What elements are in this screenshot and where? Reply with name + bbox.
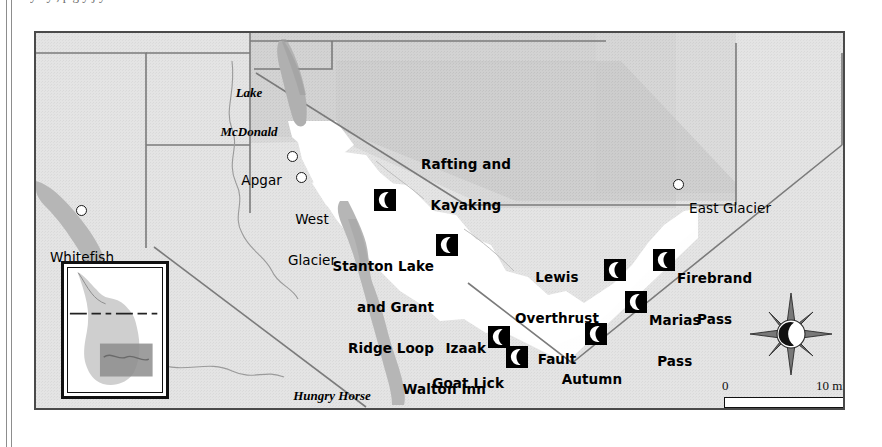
label-marias-pass: Marias Pass	[649, 286, 701, 396]
label-goat-lick: Goat Lick	[432, 349, 504, 410]
locator-inset-inner	[67, 267, 163, 393]
label-line: Stanton Lake	[332, 260, 434, 274]
town-dot-apgar[interactable]	[287, 151, 298, 162]
scale-mi-zero: 0	[722, 378, 729, 394]
label-line: Autumn	[551, 373, 633, 387]
cut-off-caption: y t y , p g y j y NORTHWEST, CANADA, AND…	[30, 0, 830, 4]
locator-inset-map[interactable]	[61, 261, 169, 399]
label-line: McDonald	[220, 125, 277, 138]
label-line: Firebrand	[677, 272, 752, 286]
scale-bar-miles	[724, 397, 845, 408]
label-line: Kayaking	[421, 199, 511, 213]
scale-tick-km	[826, 408, 827, 410]
map-frame: Rafting and Kayaking Stanton Lake and Gr…	[34, 31, 845, 410]
marker-icon-marias-pass[interactable]	[625, 291, 647, 313]
label-line: Marias	[649, 314, 701, 328]
town-dot-whitefish[interactable]	[76, 205, 87, 216]
label-line: Glacier	[288, 254, 336, 268]
page-canvas: y t y , p g y j y NORTHWEST, CANADA, AND…	[0, 0, 882, 447]
label-line: West	[288, 213, 336, 227]
label-line: Hungry Horse	[293, 389, 371, 402]
label-west-glacier: West Glacier	[288, 185, 336, 295]
scale-mi-max: 10 mi	[816, 378, 845, 394]
marker-icon-izaak-walton-inn[interactable]	[488, 326, 510, 348]
label-line: Pass	[649, 355, 701, 369]
label-rafting-and-kayaking: Rafting and Kayaking	[421, 130, 511, 240]
label-autumn-creek-trail: Autumn Creek Trail	[551, 345, 633, 410]
north-america-outline	[68, 268, 162, 392]
label-line: Lewis	[515, 271, 599, 285]
label-line: Overthrust	[515, 312, 599, 326]
town-dot-east-glacier[interactable]	[673, 179, 684, 190]
marker-icon-firebrand-pass[interactable]	[653, 249, 675, 271]
label-line: Goat Lick	[432, 377, 504, 391]
scale-bar: 0 10 mi 0 10 km	[720, 378, 845, 410]
scale-bar-kilometers	[724, 408, 828, 410]
marker-icon-rafting-and-kayaking[interactable]	[374, 189, 396, 211]
marker-icon-lewis-overthrust-fault[interactable]	[604, 259, 626, 281]
label-line: East Glacier	[689, 202, 771, 216]
town-dot-west-glacier[interactable]	[296, 172, 307, 183]
page-gutter-rule-outer	[6, 0, 7, 447]
compass-rose	[748, 291, 834, 377]
label-line: Rafting and	[421, 158, 511, 172]
caption-left-fragment: y t y , p g y j y	[30, 0, 105, 3]
label-lake-mcdonald: Lake McDonald	[220, 59, 277, 165]
page-gutter-rule-inner	[11, 0, 12, 447]
label-line: Apgar	[241, 174, 282, 188]
label-east-glacier: East Glacier	[689, 174, 771, 243]
label-hungry-horse-reservoir: Hungry Horse Reservoir	[293, 362, 371, 410]
label-line: Lake	[220, 86, 277, 99]
label-line: and Grant	[332, 301, 434, 315]
